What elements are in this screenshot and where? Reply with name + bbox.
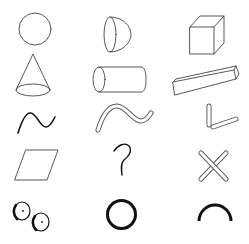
arc-icon: Arc <box>199 205 231 221</box>
ring-icon: Ring <box>108 201 136 229</box>
wave-tube-icon: Wave tube <box>98 106 151 130</box>
cube-icon: Cube <box>190 16 224 54</box>
wave-line-icon: Wave line <box>18 113 55 133</box>
x-tubes-icon: Crossed tubes <box>201 153 226 179</box>
rectangular-prism-icon: Rectangular prism <box>173 66 239 95</box>
hook-curve-icon: Hook curve <box>114 144 130 175</box>
sphere-icon: Sphere <box>19 13 51 45</box>
l-tubes-icon: L-shaped tubes <box>209 106 236 127</box>
cone-icon: Cone <box>16 54 50 96</box>
shape-canvas: Sphere Hemisphere Cube Cone Cylinder Rec <box>0 0 249 244</box>
hemisphere-icon: Hemisphere <box>104 17 131 52</box>
wheels-icon: Wheels <box>14 202 49 231</box>
parallelogram-icon: Parallelogram <box>15 150 58 180</box>
cylinder-icon: Cylinder <box>93 67 146 92</box>
